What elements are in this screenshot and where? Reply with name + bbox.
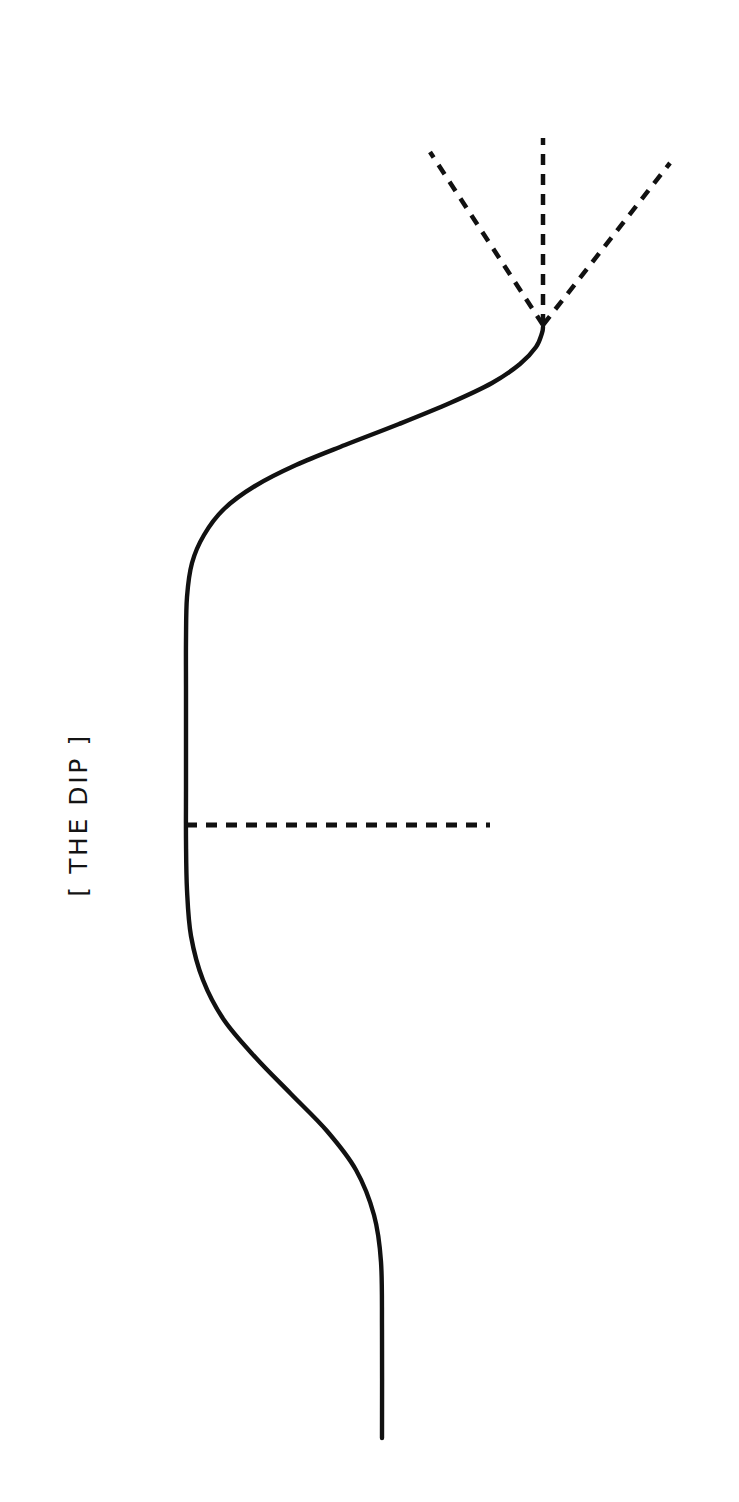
the-dip-chart — [0, 0, 739, 1502]
figure-canvas: [ THE DIP ] — [0, 0, 739, 1502]
chart-background — [0, 0, 739, 1502]
